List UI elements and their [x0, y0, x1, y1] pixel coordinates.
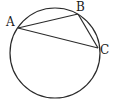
point-label-c: C — [100, 43, 109, 57]
segment-bc — [78, 14, 98, 48]
geometry-diagram: A B C — [0, 0, 114, 103]
segment-ab — [18, 14, 78, 28]
point-label-b: B — [76, 0, 85, 14]
segment-ac — [18, 28, 98, 48]
point-label-a: A — [5, 15, 15, 29]
circle — [10, 8, 100, 98]
